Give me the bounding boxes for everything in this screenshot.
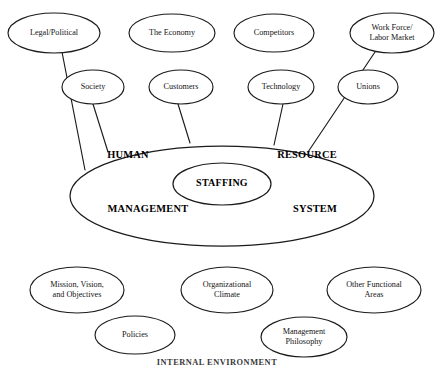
node-label-line: Organizational [203, 280, 252, 289]
node-label-line: Philosophy [286, 337, 324, 346]
core-label-human: HUMAN [107, 149, 149, 160]
society-to-core [93, 104, 108, 152]
external-node-customers[interactable]: Customers [149, 70, 213, 104]
customers-to-core [178, 104, 190, 143]
diagram-canvas: HUMANRESOURCEMANAGEMENTSYSTEMSTAFFING Le… [0, 0, 435, 368]
node-label-line: and Objectives [53, 290, 102, 299]
external-node-society[interactable]: Society [62, 70, 124, 104]
node-label-line: Customers [163, 82, 198, 91]
node-label-line: Labor Market [369, 33, 415, 42]
internal-node-policies[interactable]: Policies [95, 316, 175, 354]
external-node-technology[interactable]: Technology [248, 70, 314, 104]
node-label-line: Other Functional [346, 280, 402, 289]
internal-node-organizational-climate[interactable]: OrganizationalClimate [181, 267, 273, 313]
diagram-caption: INTERNAL ENVIRONMENT [157, 358, 278, 367]
node-label-line: Society [81, 82, 106, 91]
node-label-line: Climate [214, 290, 240, 299]
external-node-work-force-labor-market[interactable]: Work Force/Labor Market [350, 13, 434, 53]
core-system-group [70, 146, 374, 246]
node-label-line: Legal/Political [30, 28, 79, 37]
staffing-label: STAFFING [196, 177, 248, 188]
external-node-the-economy[interactable]: The Economy [129, 14, 215, 52]
core-label-management: MANAGEMENT [107, 203, 188, 214]
internal-node-mission-vision-and-objectives[interactable]: Mission, Vision,and Objectives [30, 267, 124, 313]
technology-to-core [274, 104, 283, 145]
node-label-line: Mission, Vision, [50, 280, 104, 289]
node-label-line: Competitors [254, 28, 294, 37]
internal-environment-group: Mission, Vision,and ObjectivesOrganizati… [30, 267, 421, 357]
legal-political-to-core [62, 52, 85, 170]
node-label-line: Work Force/ [372, 23, 414, 32]
node-label-line: Areas [364, 290, 383, 299]
external-node-competitors[interactable]: Competitors [234, 14, 314, 52]
node-label-line: Technology [262, 82, 301, 91]
external-node-legal-political[interactable]: Legal/Political [8, 13, 100, 53]
internal-node-other-functional-areas[interactable]: Other FunctionalAreas [327, 267, 421, 313]
node-label-line: Policies [122, 330, 148, 339]
hrm-environment-diagram: HUMANRESOURCEMANAGEMENTSYSTEMSTAFFING Le… [0, 0, 435, 368]
node-label-line: Management [283, 327, 326, 336]
external-node-unions[interactable]: Unions [338, 70, 398, 104]
internal-node-management-philosophy[interactable]: ManagementPhilosophy [261, 317, 347, 357]
node-label-line: Unions [356, 82, 380, 91]
core-label-resource: RESOURCE [277, 149, 337, 160]
node-label-line: The Economy [149, 28, 196, 37]
core-label-system: SYSTEM [293, 203, 337, 214]
